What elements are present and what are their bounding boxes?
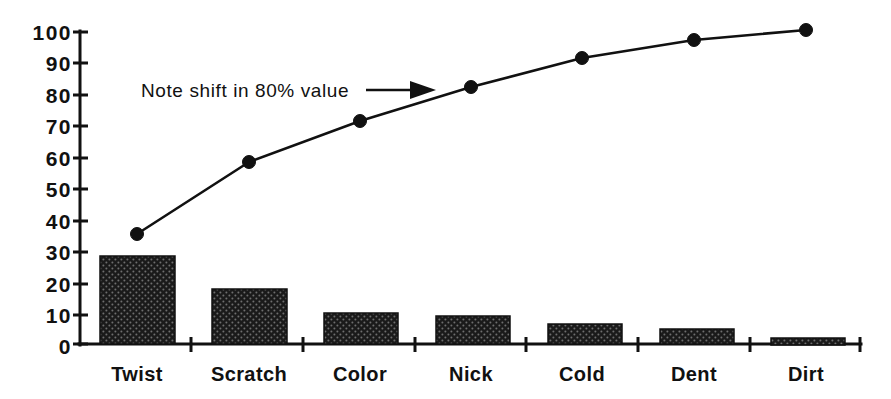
- y-tick-label-40: 40: [46, 210, 72, 233]
- x-label-twist: Twist: [111, 363, 163, 385]
- y-tick-label-10: 10: [46, 304, 72, 327]
- x-label-dirt: Dirt: [788, 363, 824, 385]
- bar-series: [100, 256, 845, 345]
- y-tick-label-50: 50: [46, 178, 72, 201]
- x-label-color: Color: [333, 363, 387, 385]
- bar-nick: [436, 316, 510, 344]
- y-tick-label-30: 30: [46, 241, 72, 264]
- y-tick-label-80: 80: [46, 84, 72, 107]
- annotation-text: Note shift in 80% value: [141, 80, 349, 101]
- chart-annotation: Note shift in 80% value: [141, 80, 436, 101]
- cum-marker-dent: [688, 34, 701, 47]
- bar-scratch: [212, 289, 287, 344]
- pareto-chart-canvas: 100 90 80 70 60 50 40 30 20 10 0: [0, 0, 891, 399]
- cum-marker-dirt: [800, 24, 813, 37]
- bar-dirt: [771, 338, 845, 345]
- x-label-nick: Nick: [449, 363, 493, 385]
- cumulative-percent-line: [137, 30, 806, 234]
- y-tick-label-90: 90: [46, 52, 72, 75]
- chart-axes: [79, 31, 861, 345]
- cumulative-line-series: [131, 24, 813, 241]
- x-label-scratch: Scratch: [211, 363, 287, 385]
- bar-color: [324, 313, 398, 344]
- cum-marker-scratch: [243, 156, 256, 169]
- y-tick-label-60: 60: [46, 147, 72, 170]
- y-axis-tick-labels: 100 90 80 70 60 50 40 30 20 10 0: [32, 21, 72, 358]
- cum-marker-color: [354, 115, 367, 128]
- y-tick-label-70: 70: [46, 115, 72, 138]
- cum-marker-cold: [576, 52, 589, 65]
- y-tick-label-100: 100: [32, 21, 72, 44]
- bar-dent: [660, 329, 734, 344]
- annotation-arrow-head-icon: [410, 81, 436, 99]
- x-label-dent: Dent: [671, 363, 717, 385]
- x-label-cold: Cold: [559, 363, 605, 385]
- bar-twist: [100, 256, 175, 344]
- y-tick-label-20: 20: [46, 273, 72, 296]
- y-tick-label-0: 0: [59, 335, 72, 358]
- cumulative-markers: [131, 24, 813, 241]
- cum-marker-nick: [465, 81, 478, 94]
- bar-cold: [548, 324, 622, 344]
- x-axis-category-labels: Twist Scratch Color Nick Cold Dent Dirt: [111, 363, 824, 385]
- cum-marker-twist: [131, 228, 144, 241]
- pareto-chart: 100 90 80 70 60 50 40 30 20 10 0: [0, 0, 891, 399]
